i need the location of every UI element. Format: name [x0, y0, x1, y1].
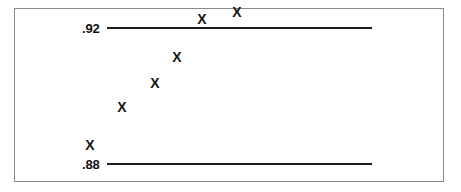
data-point-marker: X	[170, 50, 184, 64]
data-point-marker: X	[83, 138, 97, 152]
data-point-marker: X	[230, 5, 244, 19]
reference-line-upper	[107, 27, 372, 29]
scatter-plot-area: .92 .88 XXXXXX	[0, 0, 461, 192]
data-point-marker: X	[148, 76, 162, 90]
data-point-marker: X	[115, 100, 129, 114]
data-point-marker: X	[195, 12, 209, 26]
reference-line-lower	[107, 163, 372, 165]
chart-figure: .92 .88 XXXXXX	[0, 0, 461, 192]
axis-tick-label-upper: .92	[82, 22, 99, 35]
axis-tick-label-lower: .88	[82, 158, 99, 171]
